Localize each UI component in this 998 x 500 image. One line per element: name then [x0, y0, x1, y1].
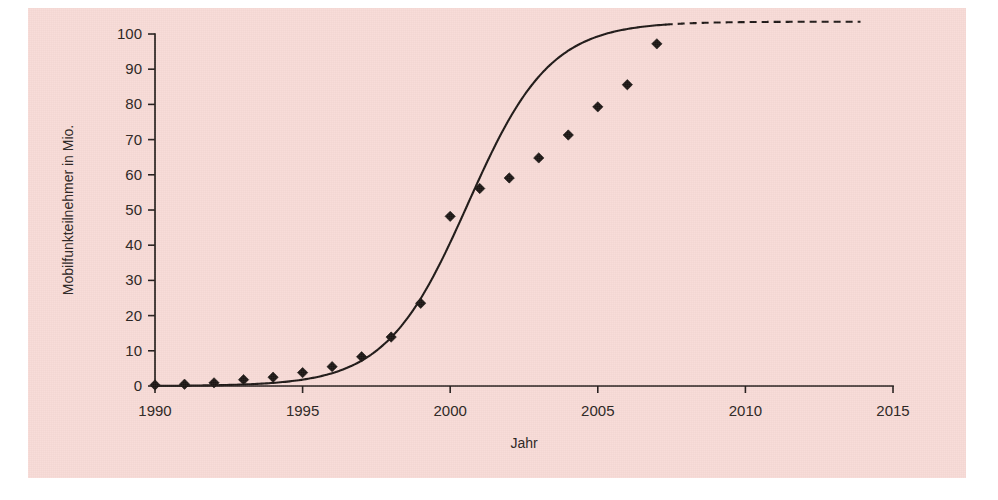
- logistic-fit-line: [155, 25, 666, 386]
- y-tick-label: 40: [125, 236, 142, 253]
- x-axis-title: Jahr: [510, 435, 538, 451]
- x-tick-label: 1990: [138, 402, 171, 419]
- y-tick-label: 50: [125, 201, 142, 218]
- data-point-marker: [327, 361, 337, 371]
- y-axis: 0102030405060708090100: [117, 25, 155, 394]
- x-axis-ticks: [155, 386, 893, 393]
- data-point-marker: [504, 173, 514, 183]
- data-point-marker: [652, 39, 662, 49]
- y-axis-title: Mobilfunkteilnehmer in Mio.: [60, 125, 76, 295]
- data-point-markers: [150, 39, 662, 390]
- y-axis-tick-labels: 0102030405060708090100: [117, 25, 142, 394]
- x-axis: 199019952000200520102015: [138, 386, 909, 419]
- y-tick-label: 90: [125, 60, 142, 77]
- y-tick-label: 80: [125, 95, 142, 112]
- figure-container: 0102030405060708090100 19901995200020052…: [0, 0, 998, 500]
- y-tick-label: 70: [125, 131, 142, 148]
- chart-panel: 0102030405060708090100 19901995200020052…: [28, 8, 966, 478]
- x-tick-label: 2000: [434, 402, 467, 419]
- data-point-marker: [593, 102, 603, 112]
- data-point-marker: [622, 79, 632, 89]
- y-axis-ticks: [148, 34, 155, 386]
- data-point-marker: [297, 367, 307, 377]
- x-tick-label: 2015: [876, 402, 909, 419]
- x-axis-tick-labels: 199019952000200520102015: [138, 402, 909, 419]
- data-point-marker: [356, 352, 366, 362]
- chart-svg: 0102030405060708090100 19901995200020052…: [28, 8, 966, 478]
- data-point-marker: [150, 380, 160, 390]
- y-tick-label: 0: [134, 377, 142, 394]
- logistic-extrapolation-line: [666, 22, 861, 25]
- data-point-marker: [268, 372, 278, 382]
- y-tick-label: 30: [125, 271, 142, 288]
- data-point-marker: [445, 211, 455, 221]
- y-tick-label: 20: [125, 307, 142, 324]
- y-tick-label: 10: [125, 342, 142, 359]
- data-point-marker: [563, 130, 573, 140]
- x-tick-label: 2010: [729, 402, 762, 419]
- x-tick-label: 1995: [286, 402, 319, 419]
- data-point-marker: [415, 298, 425, 308]
- y-tick-label: 60: [125, 166, 142, 183]
- x-tick-label: 2005: [581, 402, 614, 419]
- data-point-marker: [534, 153, 544, 163]
- data-point-marker: [179, 379, 189, 389]
- y-tick-label: 100: [117, 25, 142, 42]
